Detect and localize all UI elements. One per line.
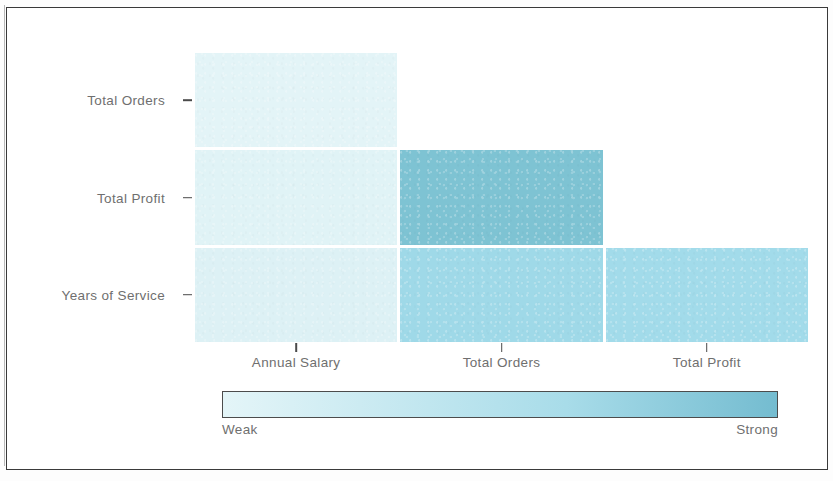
colorbar-gradient: [223, 392, 777, 417]
x-tick-label: Annual Salary: [252, 355, 341, 370]
correlation-heatmap-figure: Total OrdersTotal ProfitYears of Service…: [0, 0, 833, 481]
cell-texture: [195, 150, 397, 244]
x-tick-mark: [501, 343, 503, 352]
heatmap-plot-area: [195, 53, 811, 345]
colorbar-high-label: Strong: [736, 422, 778, 437]
heatmap-cell[interactable]: [606, 248, 808, 342]
heatmap-cell[interactable]: [195, 53, 397, 147]
y-tick-label: Years of Service: [62, 287, 165, 302]
heatmap-cell[interactable]: [195, 248, 397, 342]
x-tick-mark: [295, 343, 297, 352]
cell-texture: [195, 248, 397, 342]
colorbar-low-label: Weak: [222, 422, 258, 437]
x-tick-label: Total Orders: [463, 355, 541, 370]
y-tick-mark: [183, 99, 192, 101]
y-tick-label: Total Orders: [87, 93, 165, 108]
heatmap-cell[interactable]: [195, 150, 397, 244]
cell-texture: [400, 248, 602, 342]
colorbar-bar: [222, 391, 778, 418]
figure-frame: Total OrdersTotal ProfitYears of Service…: [6, 7, 828, 470]
heatmap-cell[interactable]: [400, 150, 602, 244]
cell-texture: [195, 53, 397, 147]
y-tick-label: Total Profit: [97, 190, 165, 205]
y-tick-mark: [183, 197, 192, 199]
colorbar-legend: Weak Strong: [222, 391, 778, 418]
x-tick-label: Total Profit: [673, 355, 741, 370]
cell-texture: [400, 150, 602, 244]
heatmap-cell[interactable]: [400, 248, 602, 342]
y-tick-mark: [183, 294, 192, 296]
x-tick-mark: [706, 343, 708, 352]
cell-texture: [606, 248, 808, 342]
